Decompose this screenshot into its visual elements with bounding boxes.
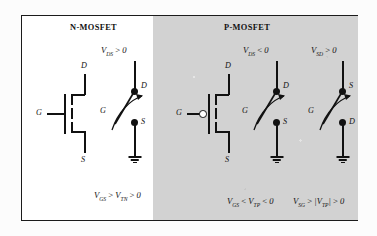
figure-frame: N-MOSFET P-MOSFET G D S VDS > 0 xyxy=(21,15,358,221)
pmos-drain-wire-v xyxy=(228,74,230,95)
pmos-vsd-gate-label: G xyxy=(308,106,314,115)
pmos-vds-bottom-terminal-label: S xyxy=(283,117,287,126)
nmos-channel-top xyxy=(71,94,73,105)
nmos-ground-symbol xyxy=(128,156,141,164)
nmos-source-label: S xyxy=(81,155,85,164)
pmos-gate-label: G xyxy=(176,108,182,117)
nmos-condition-equation: VGS > VTN > 0 xyxy=(94,190,141,202)
nmos-circuit-source-label: S xyxy=(141,117,145,126)
pmos-channel-mid xyxy=(215,108,217,119)
nmos-source-wire-v xyxy=(84,131,86,153)
pmos-source-wire-h xyxy=(215,131,229,133)
nmos-source-wire-h xyxy=(71,131,85,133)
pmos-source-wire-v xyxy=(228,131,230,153)
pmos-inversion-bubble-icon xyxy=(199,110,207,118)
pmos-channel-top xyxy=(215,94,217,105)
nmos-supply-label: VDS > 0 xyxy=(101,45,127,57)
pmos-vsd-condition-equation: VSG > |VTP| > 0 xyxy=(293,196,344,208)
nmos-switch-graphics xyxy=(102,84,150,134)
pmos-drain-wire-h xyxy=(215,94,229,96)
pmos-vds-ground-wire xyxy=(276,124,278,157)
pmos-vds-gate-label: G xyxy=(242,106,248,115)
pmos-vsd-supply-label: VSD > 0 xyxy=(311,45,337,57)
pmos-vds-condition-equation: VGS < VTP < 0 xyxy=(227,196,274,208)
nmos-channel-mid xyxy=(71,108,73,119)
pmos-vds-ground-symbol xyxy=(270,156,283,164)
pmos-vsd-bottom-terminal-label: D xyxy=(349,117,355,126)
nmos-gate-label: G xyxy=(36,108,42,117)
pmos-drain-label: D xyxy=(225,61,231,70)
pmos-vsd-ground-wire xyxy=(342,124,344,157)
nmos-drain-wire-h xyxy=(71,94,85,96)
nmos-ground-wire xyxy=(134,124,136,157)
pmos-vds-supply-label: VDS < 0 xyxy=(243,45,269,57)
nmos-gate-lead xyxy=(47,113,64,115)
nmos-gate-bar xyxy=(64,94,66,134)
mosfet-figure: N-MOSFET P-MOSFET G D S VDS > 0 xyxy=(0,0,377,236)
nmos-drain-label: D xyxy=(81,61,87,70)
n-mosfet-title: N-MOSFET xyxy=(70,23,117,32)
pmos-vsd-ground-symbol xyxy=(336,156,349,164)
pmos-vsd-switch-graphics xyxy=(310,84,358,134)
p-mosfet-title: P-MOSFET xyxy=(224,23,270,32)
pmos-source-label: S xyxy=(225,155,229,164)
nmos-circuit-gate-label: G xyxy=(100,106,106,115)
pmos-vds-switch-graphics xyxy=(244,84,292,134)
pmos-gate-bar xyxy=(208,94,210,134)
nmos-drain-wire-v xyxy=(84,74,86,95)
